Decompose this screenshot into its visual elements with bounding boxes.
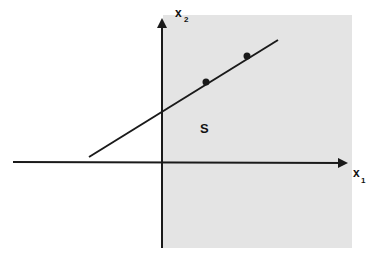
x2-axis-subscript: 2 [184, 15, 189, 24]
x1-axis-label: x [353, 166, 360, 180]
point-2 [244, 53, 251, 60]
x2-axis-label: x [175, 6, 182, 20]
diagram-canvas: S x 2 x 1 [0, 0, 369, 255]
point-1 [203, 79, 210, 86]
x1-axis [13, 162, 346, 163]
shaded-region [163, 15, 352, 248]
x1-axis-subscript: 1 [361, 176, 366, 185]
region-label: S [200, 121, 209, 136]
